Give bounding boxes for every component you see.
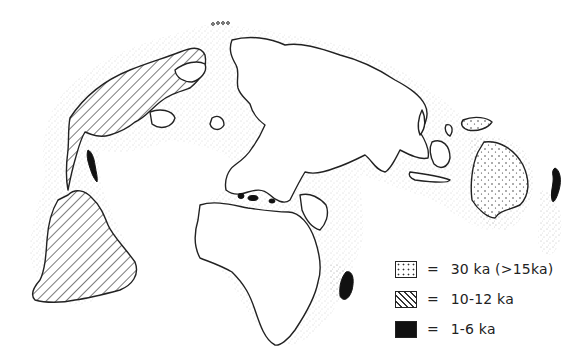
british-isles bbox=[210, 116, 224, 129]
legend-item-dotted: = 30 ka (>15ka) bbox=[395, 258, 585, 280]
black-fill-swatch bbox=[395, 321, 417, 338]
dotted-pattern-swatch bbox=[395, 261, 417, 278]
legend-item-hatched: = 10-12 ka bbox=[395, 288, 585, 310]
legend-label: 1-6 ka bbox=[451, 321, 496, 337]
hudson-bay-land bbox=[150, 110, 175, 127]
legend-equals: = bbox=[427, 321, 439, 337]
mediterranean-island-1 bbox=[238, 194, 244, 199]
legend-label: 10-12 ka bbox=[451, 291, 514, 307]
mediterranean-island-3 bbox=[269, 199, 275, 203]
legend-item-black: = 1-6 ka bbox=[395, 318, 585, 340]
map-legend: = 30 ka (>15ka) = 10-12 ka = 1-6 ka bbox=[395, 258, 585, 348]
legend-equals: = bbox=[427, 261, 439, 277]
mediterranean-island-2 bbox=[248, 196, 258, 201]
hatched-pattern-swatch bbox=[395, 291, 417, 308]
new-zealand bbox=[551, 168, 560, 202]
new-guinea bbox=[462, 117, 492, 130]
legend-equals: = bbox=[427, 291, 439, 307]
legend-label: 30 ka (>15ka) bbox=[451, 261, 554, 277]
